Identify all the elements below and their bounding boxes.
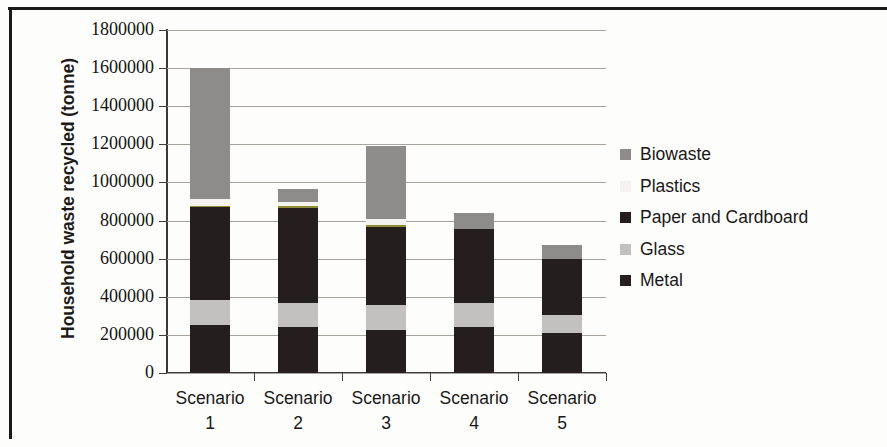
legend-swatch-icon	[620, 244, 631, 255]
x-axis-label-number: 5	[519, 411, 605, 436]
x-axis-label-number: 4	[431, 411, 517, 436]
bar-segment-paper-and-cardboard	[366, 227, 406, 305]
legend-swatch-icon	[620, 149, 631, 160]
x-axis-label-word: Scenario	[439, 388, 508, 408]
gridline	[166, 106, 606, 107]
y-axis-tick	[159, 335, 167, 336]
x-axis-label: Scenario4	[431, 386, 517, 437]
x-axis-tick	[430, 373, 431, 381]
legend-label: Glass	[640, 239, 685, 260]
bar-segment-glass	[454, 303, 494, 327]
chart-figure: Household waste recycled (tonne) 1800000…	[0, 0, 887, 447]
x-axis-label-word: Scenario	[263, 388, 332, 408]
y-axis-line	[166, 29, 168, 374]
x-axis-label-word: Scenario	[175, 388, 244, 408]
bar-segment-biowaste	[454, 213, 494, 229]
bar-segment-metal	[454, 327, 494, 373]
y-axis-tick	[159, 182, 167, 183]
gridline	[166, 30, 606, 31]
bar-segment-glass	[366, 305, 406, 330]
y-axis-tick-label: 200000	[100, 324, 154, 345]
x-axis-label-number: 1	[167, 411, 253, 436]
bar-segment-biowaste	[278, 189, 318, 202]
y-axis-tick	[159, 221, 167, 222]
x-axis-label: Scenario3	[343, 386, 429, 437]
gridline	[166, 373, 606, 374]
legend-item: Metal	[620, 265, 870, 297]
bar-segment-biowaste	[366, 146, 406, 219]
y-axis-tick-label: 1600000	[91, 57, 154, 78]
y-axis-tick-label: 1400000	[91, 95, 154, 116]
y-axis-tick-label: 600000	[100, 248, 154, 269]
gridline	[166, 68, 606, 69]
plastics-boundary-rule	[190, 206, 230, 208]
x-axis-tick	[606, 373, 607, 381]
x-axis-label: Scenario2	[255, 386, 341, 437]
legend-swatch-icon	[620, 181, 631, 192]
y-axis-tick	[159, 144, 167, 145]
page-border-top	[8, 7, 887, 10]
legend-item: Plastics	[620, 171, 870, 203]
x-axis-label-number: 3	[343, 411, 429, 436]
chart-legend: BiowastePlasticsPaper and CardboardGlass…	[620, 139, 870, 297]
x-axis-label-word: Scenario	[527, 388, 596, 408]
y-axis-tick	[159, 373, 167, 374]
y-axis-tick-label: 1800000	[91, 19, 154, 40]
bar-segment-glass	[190, 300, 230, 325]
x-axis-label: Scenario5	[519, 386, 605, 437]
legend-label: Metal	[640, 270, 683, 291]
y-axis-tick-label: 1000000	[91, 171, 154, 192]
y-axis-tick	[159, 297, 167, 298]
bar-segment-paper-and-cardboard	[542, 259, 582, 315]
page-border-left	[9, 7, 12, 439]
bar-segment-glass	[542, 315, 582, 333]
y-axis-tick	[159, 106, 167, 107]
bar-segment-metal	[190, 325, 230, 373]
y-axis-tick-label: 800000	[100, 210, 154, 231]
x-axis-tick	[518, 373, 519, 381]
bar-segment-biowaste	[542, 245, 582, 259]
legend-label: Paper and Cardboard	[640, 207, 808, 228]
x-axis-label: Scenario1	[167, 386, 253, 437]
legend-swatch-icon	[620, 212, 631, 223]
plastics-boundary-rule	[366, 225, 406, 227]
bar-segment-metal	[542, 333, 582, 373]
bar-segment-paper-and-cardboard	[278, 208, 318, 303]
y-axis-tick	[159, 259, 167, 260]
bar-segment-paper-and-cardboard	[190, 207, 230, 300]
y-axis-tick-label: 400000	[100, 286, 154, 307]
bar-segment-metal	[366, 330, 406, 373]
bar-segment-glass	[278, 303, 318, 327]
x-axis-label-number: 2	[255, 411, 341, 436]
plastics-boundary-rule	[278, 206, 318, 208]
legend-swatch-icon	[620, 275, 631, 286]
x-axis-label-word: Scenario	[351, 388, 420, 408]
y-axis-tick-label: 1200000	[91, 133, 154, 154]
legend-item: Paper and Cardboard	[620, 202, 870, 234]
bar-segment-paper-and-cardboard	[454, 229, 494, 303]
legend-item: Glass	[620, 234, 870, 266]
y-axis-tick-label: 0	[145, 362, 154, 383]
x-axis-tick	[342, 373, 343, 381]
legend-item: Biowaste	[620, 139, 870, 171]
y-axis-title: Household waste recycled (tonne)	[58, 19, 79, 379]
y-axis-tick	[159, 30, 167, 31]
plot-area: 1800000160000014000001200000100000080000…	[166, 30, 606, 373]
bar-segment-biowaste	[190, 68, 230, 199]
x-axis-tick	[254, 373, 255, 381]
legend-label: Biowaste	[640, 144, 711, 165]
legend-label: Plastics	[640, 176, 700, 197]
bar-segment-metal	[278, 327, 318, 373]
y-axis-tick	[159, 68, 167, 69]
